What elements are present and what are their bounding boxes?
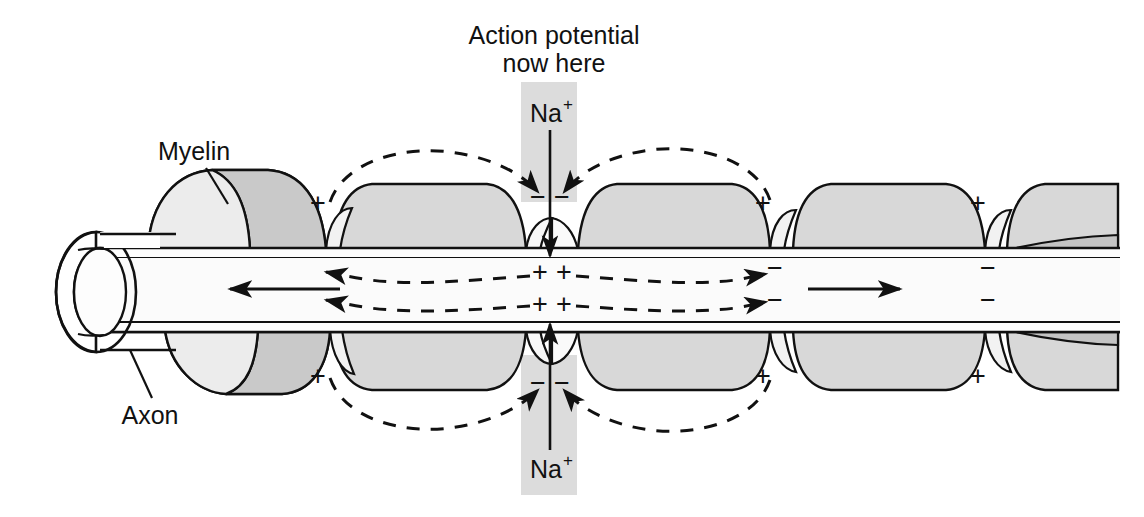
charge-sign: − (767, 285, 783, 315)
myelin-label: Myelin (158, 137, 230, 165)
na-charge-bottom: + (563, 451, 573, 470)
na-text-bottom: Na (530, 455, 562, 483)
axon-label: Axon (122, 401, 179, 429)
charge-sign: − (980, 285, 996, 315)
charge-sign: − (554, 182, 570, 212)
charge-sign: + (556, 257, 572, 287)
charge-sign: + (755, 188, 771, 218)
charge-sign: + (310, 361, 326, 391)
charge-sign: − (767, 253, 783, 283)
na-charge-top: + (563, 95, 573, 114)
na-text-top: Na (530, 99, 562, 127)
charge-sign: + (970, 361, 986, 391)
saltatory-conduction-figure: Action potential now here Na + Na + Myel… (0, 0, 1144, 517)
charge-sign: + (970, 188, 986, 218)
charge-sign: − (530, 368, 546, 398)
axon-diagram-svg: Action potential now here Na + Na + Myel… (0, 0, 1144, 517)
charge-sign: + (310, 188, 326, 218)
action-potential-line1: Action potential (469, 21, 640, 49)
charge-sign: + (556, 289, 572, 319)
charge-sign: − (554, 368, 570, 398)
charge-sign: − (980, 253, 996, 283)
charge-sign: + (755, 361, 771, 391)
charge-sign: + (532, 257, 548, 287)
charge-sign: − (530, 182, 546, 212)
charge-sign: + (532, 289, 548, 319)
action-potential-line2: now here (503, 49, 606, 77)
